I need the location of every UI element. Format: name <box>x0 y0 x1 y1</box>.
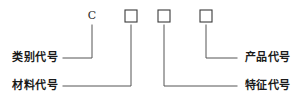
leader-line-group <box>63 25 237 86</box>
leader-line-material <box>63 25 131 86</box>
leader-line-product <box>206 25 237 58</box>
callout-label-material: 材料代号 <box>0 80 58 91</box>
code-slot-product-box <box>200 10 212 22</box>
callout-label-feature: 特征代号 <box>245 80 291 91</box>
code-slot-material-box <box>125 10 137 22</box>
code-slot-category-letter: C <box>88 9 96 22</box>
leader-line-feature <box>164 25 237 86</box>
leader-line-category <box>63 25 92 58</box>
code-slot-feature-box <box>158 10 170 22</box>
designation-code-diagram: C 类别代号 材料代号 产品代号 特征代号 <box>0 0 300 100</box>
callout-label-product: 产品代号 <box>245 52 291 63</box>
callout-label-category: 类别代号 <box>0 52 58 63</box>
